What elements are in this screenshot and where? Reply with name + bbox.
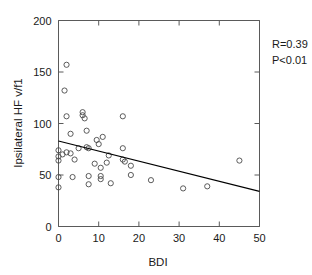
data-point-marker — [120, 146, 125, 151]
data-point-marker — [70, 174, 75, 179]
data-point-marker — [100, 134, 105, 139]
y-tick-label: 100 — [33, 118, 51, 130]
data-point-marker — [237, 158, 242, 163]
data-point-marker — [98, 165, 103, 170]
data-point-marker — [98, 177, 103, 182]
data-point-marker — [205, 184, 210, 189]
data-point-marker — [86, 182, 91, 187]
x-axis-tick-labels: 01020304050 — [55, 232, 265, 244]
data-point-marker — [104, 160, 109, 165]
data-point-marker — [108, 181, 113, 186]
scatter-plot-figure: 01020304050 050100150200 BDI Ipsilateral… — [0, 0, 312, 275]
regression-line — [59, 141, 260, 191]
data-point-marker — [84, 128, 89, 133]
data-point-marker — [181, 186, 186, 191]
x-tick-label: 50 — [253, 232, 265, 244]
data-point-marker — [128, 172, 133, 177]
data-point-marker — [68, 131, 73, 136]
plot-frame — [59, 21, 260, 227]
x-tick-label: 40 — [213, 232, 225, 244]
y-axis-title: Ipsilateral HF v/f1 — [12, 78, 24, 167]
data-point-marker — [120, 114, 125, 119]
data-point-marker — [128, 163, 133, 168]
data-point-marker — [64, 114, 69, 119]
y-tick-label: 0 — [45, 221, 51, 233]
data-point-marker — [96, 142, 101, 147]
x-tick-label: 30 — [173, 232, 185, 244]
y-tick-label: 200 — [33, 15, 51, 27]
x-axis-title: BDI — [148, 256, 167, 268]
tick-marks — [59, 21, 260, 227]
data-point-marker — [72, 157, 77, 162]
data-point-marker — [92, 161, 97, 166]
data-point-marker — [64, 62, 69, 67]
correlation-annotation: R=0.39 — [272, 38, 308, 50]
data-point-marker — [86, 173, 91, 178]
y-tick-label: 50 — [39, 169, 51, 181]
x-tick-label: 20 — [133, 232, 145, 244]
y-axis-tick-labels: 050100150200 — [33, 15, 51, 233]
x-tick-label: 10 — [93, 232, 105, 244]
data-point-marker — [62, 88, 67, 93]
y-tick-label: 150 — [33, 66, 51, 78]
chart-canvas: 01020304050 050100150200 BDI Ipsilateral… — [0, 0, 312, 275]
axis-frame — [59, 21, 260, 227]
data-point-marker — [148, 178, 153, 183]
pvalue-annotation: P<0.01 — [272, 54, 307, 66]
data-point-series — [56, 62, 242, 191]
x-tick-label: 0 — [55, 232, 61, 244]
